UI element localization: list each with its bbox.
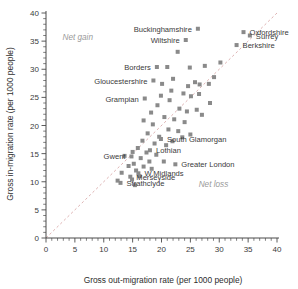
y-tick-label: 25 xyxy=(30,93,39,102)
data-point-label: Strathclyde xyxy=(126,179,164,188)
data-point xyxy=(116,179,120,183)
data-point xyxy=(203,64,207,68)
data-point-label: South Glamorgan xyxy=(167,135,227,144)
data-point xyxy=(186,84,190,88)
data-point xyxy=(207,82,211,86)
chart-annotation: Net gain xyxy=(63,33,94,42)
data-point xyxy=(184,38,188,42)
x-tick-label: 20 xyxy=(157,245,166,254)
data-point xyxy=(188,66,192,70)
data-point xyxy=(200,113,204,117)
chart-canvas: 05101520253035400510152025303540 Bucking… xyxy=(0,0,298,289)
data-point-label: Grampian xyxy=(105,95,138,104)
data-point xyxy=(157,135,161,139)
data-point xyxy=(165,65,169,69)
data-point-label: Gloucestershire xyxy=(94,77,147,86)
data-point xyxy=(131,150,135,154)
data-point xyxy=(160,82,164,86)
data-point xyxy=(151,122,155,126)
y-tick-label: 15 xyxy=(30,150,39,159)
data-point xyxy=(212,75,216,79)
data-point xyxy=(155,103,159,107)
x-tick-label: 25 xyxy=(186,245,195,254)
data-point xyxy=(181,91,185,95)
data-point xyxy=(146,131,150,135)
data-point xyxy=(127,164,131,168)
data-point xyxy=(169,89,173,93)
data-point xyxy=(159,94,163,98)
data-point xyxy=(173,162,177,166)
data-point xyxy=(218,61,222,65)
x-tick-label: 30 xyxy=(215,245,224,254)
data-point xyxy=(148,148,152,152)
data-point xyxy=(151,79,155,83)
data-point xyxy=(195,108,199,112)
y-tick-label: 35 xyxy=(30,37,39,46)
data-point xyxy=(162,160,166,164)
data-point xyxy=(143,97,147,101)
x-tick-label: 0 xyxy=(44,245,49,254)
data-point xyxy=(142,118,146,122)
data-point xyxy=(136,146,140,150)
data-point xyxy=(198,82,202,86)
data-point-label: Borders xyxy=(124,63,151,72)
x-tick-label: 40 xyxy=(273,245,282,254)
y-tick-label: 20 xyxy=(30,122,39,131)
data-point xyxy=(120,171,124,175)
data-point xyxy=(171,77,175,81)
data-point xyxy=(132,162,136,166)
data-point-label: Buckinghamshire xyxy=(134,25,192,34)
data-point-label: Surrey xyxy=(256,32,279,41)
x-tick-label: 15 xyxy=(128,245,137,254)
data-point xyxy=(172,117,176,121)
data-point xyxy=(197,92,201,96)
data-point xyxy=(139,156,143,160)
data-point xyxy=(193,80,197,84)
y-tick-label: 5 xyxy=(35,206,40,215)
y-tick-label: 40 xyxy=(30,9,39,18)
data-point xyxy=(208,101,212,105)
data-point xyxy=(166,127,170,131)
data-point xyxy=(140,139,144,143)
y-tick-label: 0 xyxy=(35,234,40,243)
chart-annotation: Net loss xyxy=(199,180,229,189)
data-point xyxy=(129,154,133,158)
data-point-label: Wiltshire xyxy=(151,36,180,45)
data-point xyxy=(189,94,193,98)
x-tick-label: 10 xyxy=(99,245,108,254)
data-point-label: Gwent xyxy=(104,152,127,161)
data-point-label: Greater London xyxy=(181,160,234,169)
data-point xyxy=(177,107,181,111)
data-point xyxy=(162,115,166,119)
y-tick-label: 30 xyxy=(30,65,39,74)
point-labels-layer: BuckinghamshireWiltshireOxfordshireSurre… xyxy=(94,25,289,188)
data-point-label: Lothian xyxy=(156,146,181,155)
data-point xyxy=(155,65,159,69)
data-point xyxy=(176,50,180,54)
scatter-chart: 05101520253035400510152025303540 Bucking… xyxy=(0,0,298,289)
data-point xyxy=(185,109,189,113)
x-axis-title: Gross out-migration rate (per 1000 peopl… xyxy=(84,275,243,285)
data-point-label: Berkshire xyxy=(243,41,275,50)
y-tick-label: 10 xyxy=(30,178,39,187)
data-point xyxy=(142,165,146,169)
data-point xyxy=(168,98,172,102)
data-point xyxy=(149,111,153,115)
data-point xyxy=(183,120,187,124)
data-point xyxy=(176,129,180,133)
data-point xyxy=(147,160,151,164)
x-tick-label: 5 xyxy=(73,245,78,254)
data-point xyxy=(235,43,239,47)
x-tick-label: 35 xyxy=(244,245,253,254)
y-axis-title: Gross in-migration rate (per 1000 people… xyxy=(5,47,15,201)
data-point xyxy=(153,142,157,146)
data-point xyxy=(144,151,148,155)
data-point xyxy=(196,27,200,31)
data-point xyxy=(242,30,246,34)
